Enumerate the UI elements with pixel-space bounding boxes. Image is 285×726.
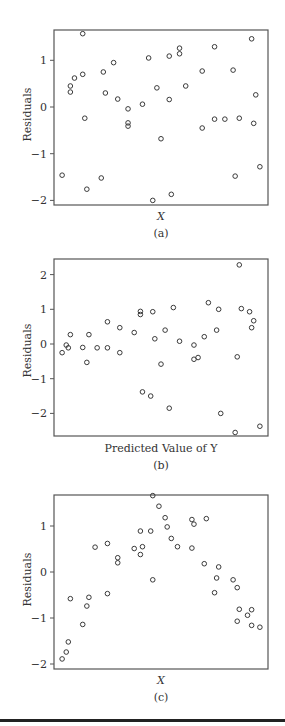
data-point bbox=[175, 544, 180, 549]
data-point bbox=[140, 544, 145, 549]
data-point bbox=[212, 590, 217, 595]
y-axis-label-c: Residuals bbox=[21, 557, 34, 607]
data-point bbox=[235, 585, 240, 590]
panel-c: 10−1−2 Residuals X (c) bbox=[0, 0, 285, 715]
data-point bbox=[64, 650, 69, 655]
data-point bbox=[249, 607, 254, 612]
data-point bbox=[216, 565, 221, 570]
data-point bbox=[202, 561, 207, 566]
scatter-plot-c: 10−1−2 bbox=[0, 0, 285, 680]
data-point bbox=[190, 517, 195, 522]
data-point bbox=[115, 555, 120, 560]
data-point bbox=[258, 625, 263, 630]
data-point bbox=[231, 578, 236, 583]
data-point bbox=[157, 504, 162, 509]
data-point bbox=[204, 516, 209, 521]
data-point bbox=[66, 640, 71, 645]
data-point bbox=[214, 576, 219, 581]
data-point bbox=[235, 619, 240, 624]
data-point bbox=[192, 522, 197, 527]
data-point bbox=[115, 561, 120, 566]
caption-c: (c) bbox=[0, 691, 285, 704]
y-tick-label: 0 bbox=[40, 566, 47, 579]
data-point bbox=[60, 657, 65, 662]
data-point bbox=[150, 578, 155, 583]
data-point bbox=[169, 536, 174, 541]
data-point bbox=[80, 622, 85, 627]
bottom-rule bbox=[0, 719, 285, 722]
y-tick-label: 1 bbox=[40, 520, 47, 533]
data-point bbox=[138, 529, 143, 534]
y-tick-label: −1 bbox=[31, 612, 47, 625]
data-point bbox=[105, 591, 110, 596]
data-point bbox=[68, 596, 73, 601]
data-point bbox=[138, 552, 143, 557]
data-point bbox=[150, 493, 155, 498]
data-point bbox=[87, 595, 92, 600]
data-point bbox=[245, 613, 250, 618]
data-point bbox=[148, 529, 153, 534]
data-point bbox=[105, 541, 110, 546]
plot-frame bbox=[54, 495, 268, 669]
data-point bbox=[190, 546, 195, 551]
data-point bbox=[132, 546, 137, 551]
data-point bbox=[85, 604, 90, 609]
data-point bbox=[93, 545, 98, 550]
data-point bbox=[237, 607, 242, 612]
x-axis-label-c: X bbox=[0, 674, 285, 687]
y-tick-label: −2 bbox=[31, 658, 47, 671]
data-point bbox=[163, 515, 168, 520]
data-point bbox=[165, 525, 170, 530]
data-point bbox=[249, 623, 254, 628]
